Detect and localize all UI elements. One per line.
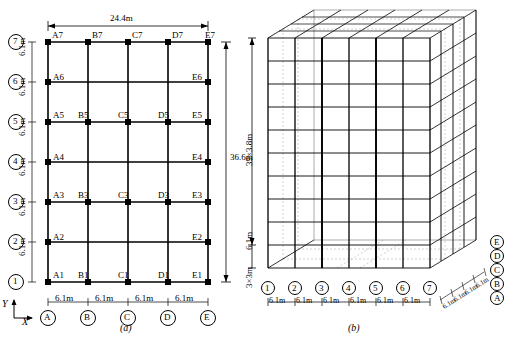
plan-floor-marker-2: 2 bbox=[13, 236, 18, 246]
axis-y-label: Y bbox=[2, 298, 8, 309]
plan-left-dim-4: 6.1m bbox=[17, 198, 27, 216]
figure-container bbox=[0, 0, 513, 340]
node-label-a4: A4 bbox=[53, 152, 64, 162]
iso-bottom-marker-3: 3 bbox=[319, 283, 324, 293]
node-label-e1: E1 bbox=[192, 270, 202, 280]
plan-floor-marker-6: 6 bbox=[13, 76, 18, 86]
plan-bottom-dim-2: 6.1m bbox=[135, 293, 153, 303]
right-dimension-line bbox=[221, 42, 231, 282]
iso-bottom-dim-0: 6.1m bbox=[269, 296, 285, 305]
node-label-a7: A7 bbox=[52, 30, 63, 40]
iso-depth-marker-c: C bbox=[494, 265, 500, 275]
caption-a: (a) bbox=[120, 322, 132, 333]
plan-floor-marker-3: 3 bbox=[13, 196, 18, 206]
node-label-d1: D1 bbox=[158, 270, 169, 280]
iso-bottom-marker-7: 7 bbox=[427, 283, 432, 293]
iso-bottom-marker-6: 6 bbox=[400, 283, 405, 293]
iso-depth-marker-a: A bbox=[494, 293, 501, 303]
iso-bottom-dim-2: 6.1m bbox=[323, 296, 339, 305]
iso-bottom-dim-4: 6.1m bbox=[377, 296, 393, 305]
node-label-e6: E6 bbox=[192, 72, 202, 82]
node-label-e4: E4 bbox=[192, 152, 202, 162]
node-label-d5: D5 bbox=[158, 110, 169, 120]
node-label-b5: B5 bbox=[78, 110, 89, 120]
node-label-c1: C1 bbox=[118, 270, 129, 280]
node-label-e2: E2 bbox=[192, 232, 202, 242]
node-label-d3: D3 bbox=[158, 190, 169, 200]
node-label-c3: C3 bbox=[118, 190, 129, 200]
plan-floor-marker-1: 1 bbox=[13, 276, 18, 286]
iso-bottom-marker-5: 5 bbox=[373, 283, 378, 293]
iso-depth-marker-b: B bbox=[494, 279, 500, 289]
plan-bottom-dim-1: 6.1m bbox=[95, 293, 113, 303]
iso-bottom-marker-1: 1 bbox=[265, 283, 270, 293]
node-label-d7: D7 bbox=[172, 30, 183, 40]
plan-column-marker-b: B bbox=[84, 312, 90, 322]
plan-floor-marker-7: 7 bbox=[13, 36, 18, 46]
plan-left-dim-2: 6.1m bbox=[17, 118, 27, 136]
iso-bottom-dim-5: 6.1m bbox=[404, 296, 420, 305]
iso-depth-marker-e: E bbox=[494, 237, 500, 247]
plan-column-marker-a: A bbox=[44, 312, 51, 322]
node-label-a5: A5 bbox=[53, 110, 64, 120]
node-label-c7: C7 bbox=[132, 30, 143, 40]
iso-bottom-marker-4: 4 bbox=[346, 283, 351, 293]
node-label-b3: B3 bbox=[78, 190, 89, 200]
plan-column-marker-d: D bbox=[164, 312, 171, 322]
plan-left-dim-5: 6.1m bbox=[17, 238, 27, 256]
left-dimension-chain bbox=[28, 42, 36, 282]
node-label-a6: A6 bbox=[53, 72, 64, 82]
node-label-e3: E3 bbox=[192, 190, 202, 200]
plan-column-marker-e: E bbox=[204, 312, 210, 322]
plan-top-dim: 24.4m bbox=[110, 13, 133, 23]
iso-height-dim: 39×3.8m bbox=[244, 134, 254, 166]
iso-frame-b bbox=[248, 10, 504, 306]
iso-depth-marker-d: D bbox=[494, 251, 501, 261]
plan-left-dim-0: 6.1m bbox=[17, 38, 27, 56]
plan-left-dim-3: 6.1m bbox=[17, 158, 27, 176]
iso-bottom-dim-3: 6.1m bbox=[350, 296, 366, 305]
iso-back-grid bbox=[314, 10, 476, 240]
node-label-b7: B7 bbox=[92, 30, 103, 40]
plan-bottom-dim-3: 6.1m bbox=[175, 293, 193, 303]
node-label-c5: C5 bbox=[118, 110, 129, 120]
plan-bottom-dim-0: 6.1m bbox=[55, 293, 73, 303]
plan-column-marker-c: C bbox=[124, 312, 130, 322]
plan-floor-marker-5: 5 bbox=[13, 116, 18, 126]
iso-mid-dim: 6.1m bbox=[244, 232, 254, 250]
caption-b: (b) bbox=[348, 322, 360, 333]
plan-left-dim-1: 6.1m bbox=[17, 78, 27, 96]
plan-floor-marker-4: 4 bbox=[13, 156, 18, 166]
iso-base-dim: 3×3m bbox=[244, 267, 254, 288]
node-label-a3: A3 bbox=[53, 190, 64, 200]
node-label-b1: B1 bbox=[78, 270, 89, 280]
figure-svg bbox=[0, 0, 513, 340]
node-label-e7: E7 bbox=[205, 30, 215, 40]
node-label-a2: A2 bbox=[53, 232, 64, 242]
axis-x-label: X bbox=[22, 316, 28, 327]
iso-bottom-marker-2: 2 bbox=[292, 283, 297, 293]
node-label-e5: E5 bbox=[192, 110, 202, 120]
iso-hidden-lines bbox=[283, 19, 460, 268]
node-label-a1: A1 bbox=[53, 270, 64, 280]
iso-bottom-dim-1: 6.1m bbox=[296, 296, 312, 305]
